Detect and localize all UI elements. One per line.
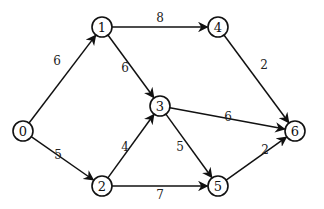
node-label: 0 (19, 124, 27, 139)
node-4: 4 (208, 17, 228, 37)
edge-arrow (108, 35, 154, 97)
edge-weight-3-6: 6 (224, 110, 232, 124)
edge-3-5 (166, 114, 212, 177)
edge-2-3 (108, 115, 154, 178)
node-1: 1 (92, 17, 112, 37)
edge-arrow (226, 137, 286, 180)
edge-arrow (31, 137, 93, 180)
edge-1-3 (108, 35, 154, 97)
node-2: 2 (92, 176, 112, 196)
edge-weight-0-2: 5 (54, 148, 62, 162)
edge-weight-4-6: 2 (260, 58, 268, 72)
edge-weight-1-4: 8 (156, 11, 164, 25)
edge-arrow (29, 35, 96, 123)
node-label: 2 (98, 179, 106, 194)
node-label: 6 (291, 124, 299, 139)
edge-arrow (108, 115, 154, 178)
edge-weight-0-1: 6 (53, 54, 61, 68)
edge-0-1 (29, 35, 96, 123)
edge-weight-5-6: 2 (261, 143, 269, 157)
edge-weight-3-5: 5 (176, 140, 184, 154)
node-5: 5 (208, 176, 228, 196)
edge-weight-2-5: 7 (156, 188, 164, 202)
node-6: 6 (285, 121, 305, 141)
node-0: 0 (13, 121, 33, 141)
node-label: 1 (98, 20, 106, 35)
edge-4-6 (224, 35, 289, 123)
edge-5-6 (226, 137, 286, 180)
node-3: 3 (150, 96, 170, 116)
node-label: 5 (214, 179, 222, 194)
nodes-layer: 0123456 (13, 17, 305, 196)
directed-graph: 6586476522 0123456 (0, 0, 324, 209)
edge-weight-2-3: 4 (121, 140, 129, 154)
node-label: 3 (156, 99, 164, 114)
edge-arrow (224, 35, 289, 123)
node-label: 4 (214, 20, 222, 35)
edge-arrow (166, 114, 212, 177)
edge-0-2 (31, 137, 93, 180)
edge-weight-1-3: 6 (121, 61, 129, 75)
